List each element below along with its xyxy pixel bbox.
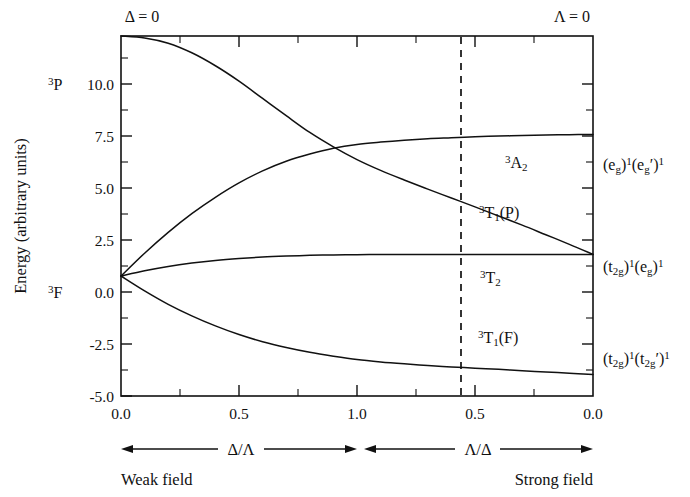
weak-field-label: Weak field bbox=[121, 470, 193, 489]
x-axis-top-ticks bbox=[180, 36, 534, 47]
y-tick-label-0: 0.0 bbox=[95, 284, 115, 301]
strong-field-label: Strong field bbox=[515, 470, 594, 489]
y-axis-title: Energy (arbitrary units) bbox=[11, 138, 30, 293]
correlation-diagram-figure: Δ = 0 Λ = 0 bbox=[0, 0, 690, 497]
config-label-t2g-t2gprime-group: (t2g)1(t2g′)1 bbox=[603, 349, 670, 369]
state-label-3T1P: 3T1(P) bbox=[479, 203, 519, 223]
config-label-eg-egprime: (eg)1(eg′)1 bbox=[603, 155, 664, 175]
free-ion-term-3P: 3P bbox=[48, 75, 63, 93]
svg-text:3F: 3F bbox=[48, 283, 63, 301]
x-tick-label-0: 0.0 bbox=[111, 405, 131, 422]
right-axis-ticks bbox=[582, 84, 593, 370]
x-tick-label-0_5-left: 0.5 bbox=[229, 405, 249, 422]
y-tick-label-neg5: -5.0 bbox=[89, 388, 114, 405]
config-label-eg-egprime-group: (eg)1(eg′)1 bbox=[603, 155, 664, 175]
term-3F-body: F bbox=[54, 284, 63, 301]
y-tick-label-neg2_5: -2.5 bbox=[89, 336, 114, 353]
x-axis-ticks bbox=[180, 385, 534, 396]
svg-text:3P: 3P bbox=[48, 75, 63, 93]
state-label-3T2: 3T2 bbox=[480, 268, 501, 288]
lambda-zero-label: Λ = 0 bbox=[554, 8, 590, 25]
curve-3T1-F bbox=[121, 276, 593, 374]
plot-frame bbox=[121, 36, 593, 396]
y-tick-label-5: 5.0 bbox=[95, 180, 115, 197]
y-tick-label-2_5: 2.5 bbox=[95, 232, 115, 249]
state-label-3A2: 3A2 bbox=[505, 153, 528, 173]
free-ion-term-3F: 3F bbox=[48, 283, 63, 301]
energy-level-correlation-chart: Δ = 0 Λ = 0 bbox=[0, 0, 690, 497]
state-label-3A2-group: 3A2 bbox=[505, 153, 528, 173]
term-3P-body: P bbox=[54, 76, 63, 93]
ratio-arrow-delta-over-lambda: Δ/Λ bbox=[121, 440, 357, 459]
x-tick-labels: 0.0 0.5 1.0 0.5 0.0 bbox=[111, 405, 603, 422]
config-label-t2g-t2gprime: (t2g)1(t2g′)1 bbox=[603, 349, 670, 369]
y-axis-major-ticks bbox=[121, 84, 132, 396]
delta-zero-label: Δ = 0 bbox=[125, 8, 159, 25]
y-tick-label-10: 10.0 bbox=[87, 76, 114, 93]
y-axis-minor-ticks bbox=[121, 58, 128, 370]
config-label-t2g-eg-group: (t2g)1(eg)1 bbox=[603, 257, 663, 277]
state-label-3T1F: 3T1(F) bbox=[478, 328, 518, 348]
x-tick-label-1: 1.0 bbox=[347, 405, 367, 422]
x-tick-label-0_5-right: 0.5 bbox=[465, 405, 485, 422]
state-label-3T1F-group: 3T1(F) bbox=[478, 328, 518, 348]
ratio-label-lambda-delta: Λ/Δ bbox=[464, 440, 491, 459]
x-tick-label-0-right: 0.0 bbox=[583, 405, 603, 422]
config-label-t2g-eg: (t2g)1(eg)1 bbox=[603, 257, 663, 277]
state-label-3T2-group: 3T2 bbox=[480, 268, 501, 288]
ratio-arrow-lambda-over-delta: Λ/Δ bbox=[364, 440, 593, 459]
y-tick-label-7_5: 7.5 bbox=[95, 128, 115, 145]
y-tick-labels: 10.0 7.5 5.0 2.5 0.0 -2.5 -5.0 bbox=[87, 76, 114, 405]
ratio-label-delta-lambda: Δ/Λ bbox=[227, 440, 254, 459]
curve-3T2 bbox=[121, 254, 593, 276]
state-label-3T1P-group: 3T1(P) bbox=[479, 203, 519, 223]
